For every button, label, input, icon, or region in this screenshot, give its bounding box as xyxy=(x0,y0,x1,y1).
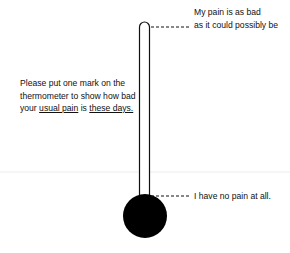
bottom-label: I have no pain at all. xyxy=(194,190,271,203)
thermometer-tube[interactable] xyxy=(140,22,150,200)
usual-pain-emphasis: usual pain xyxy=(39,103,78,113)
instruction-line3: your usual pain is these days. xyxy=(20,102,136,115)
instruction-text: Please put one mark on the thermometer t… xyxy=(20,77,136,115)
top-label-line2: as it could possibly be xyxy=(194,19,278,32)
these-days-emphasis: these days. xyxy=(89,103,133,113)
instruction-line3-prefix: your xyxy=(20,103,39,113)
top-label-line1: My pain is as bad xyxy=(194,6,278,19)
instruction-line1: Please put one mark on the xyxy=(20,77,136,90)
instruction-line3-mid: is xyxy=(78,103,89,113)
thermometer-bulb xyxy=(123,194,167,238)
thermometer-graphic xyxy=(0,0,290,253)
instruction-line2: thermometer to show how bad xyxy=(20,90,136,103)
top-label: My pain is as bad as it could possibly b… xyxy=(194,6,278,31)
